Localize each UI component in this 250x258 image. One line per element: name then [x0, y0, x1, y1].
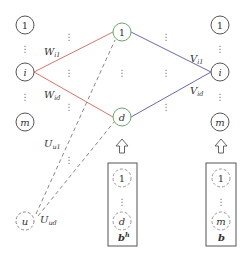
edge-ellipsis-mid: ⋮ — [65, 68, 74, 78]
hidden-node-d-label: d — [119, 112, 125, 123]
user-node-group: u — [16, 212, 34, 230]
bias-output-ellipsis: ⋮ — [217, 197, 226, 207]
label-v-i1: Vi1 — [190, 53, 203, 66]
input-node-i-label: i — [23, 67, 26, 78]
arrow-up-hidden-icon — [116, 139, 128, 153]
autoencoder-diagram: 1 ⋮ i ⋮ m u 1 ⋮ d 1 ⋮ i ⋮ m ⋮ ⋮ ⋮ ⋮ ⋮ ⋮ … — [0, 0, 250, 258]
bias-output-box: 1 ⋮ m b — [206, 163, 236, 246]
edge-ellipsis-v-bottom: ⋮ — [162, 102, 171, 112]
label-w-id: Wid — [44, 89, 61, 102]
input-layer: 1 ⋮ i ⋮ m — [16, 16, 34, 131]
user-node-label: u — [22, 216, 28, 227]
edge-v-i1 — [131, 32, 211, 72]
edge-ellipsis-user: ⋮ — [65, 155, 74, 165]
bias-hidden-node-d-label: d — [119, 216, 125, 227]
bias-hidden-node-1-label: 1 — [119, 173, 125, 184]
arrow-up-output-icon — [215, 139, 227, 153]
label-w-i1: Wi1 — [44, 46, 61, 59]
edge-ellipsis-bottom: ⋮ — [65, 102, 74, 112]
output-ellipsis-1: ⋮ — [216, 44, 225, 54]
input-ellipsis-1: ⋮ — [21, 44, 30, 54]
input-node-1-label: 1 — [22, 20, 28, 31]
bias-hidden-box: 1 ⋮ d bh — [108, 163, 137, 246]
edge-u-u1 — [36, 40, 115, 214]
bias-output-label: b — [218, 232, 225, 243]
output-ellipsis-2: ⋮ — [216, 92, 225, 102]
output-layer: 1 ⋮ i ⋮ m — [211, 16, 229, 131]
edge-u-ud — [38, 122, 114, 216]
hidden-ellipsis: ⋮ — [118, 68, 127, 78]
bias-hidden-ellipsis: ⋮ — [118, 197, 127, 207]
output-node-1-label: 1 — [217, 20, 223, 31]
output-node-m-label: m — [215, 117, 224, 128]
bias-output-node-1-label: 1 — [218, 173, 224, 184]
input-node-m-label: m — [20, 117, 29, 128]
edge-ellipsis-v-top: ⋮ — [162, 32, 171, 42]
label-u-u1: Uu1 — [44, 138, 61, 151]
label-v-id: Vid — [190, 85, 203, 98]
edge-ellipsis-top: ⋮ — [65, 32, 74, 42]
bias-output-node-m-label: m — [216, 216, 225, 227]
hidden-node-1-label: 1 — [119, 27, 125, 38]
edge-ellipsis-v-mid: ⋮ — [162, 68, 171, 78]
hidden-layer: 1 ⋮ d — [113, 23, 131, 126]
input-ellipsis-2: ⋮ — [21, 92, 30, 102]
label-u-ud: Uud — [40, 214, 57, 227]
output-node-i-label: i — [218, 67, 221, 78]
